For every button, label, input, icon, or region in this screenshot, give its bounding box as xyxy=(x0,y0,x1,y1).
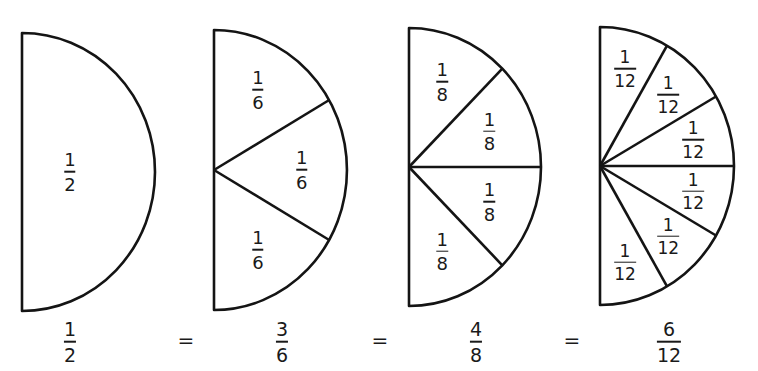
fraction-bar xyxy=(682,139,704,141)
equals-sign: = xyxy=(178,328,195,352)
numerator: 1 xyxy=(252,69,263,87)
numerator: 1 xyxy=(663,75,674,92)
denominator: 12 xyxy=(657,99,679,116)
semicircle-outline xyxy=(214,30,347,310)
equals-sign: = xyxy=(372,328,389,352)
semicircle-outline xyxy=(22,33,155,311)
semicircle-eighths xyxy=(409,28,541,306)
denominator: 12 xyxy=(657,345,681,364)
semicircle-sixths xyxy=(214,30,347,310)
numerator: 1 xyxy=(437,230,448,248)
slice-label: 112 xyxy=(682,120,704,161)
fraction-bar xyxy=(682,191,704,193)
slice-label: 18 xyxy=(484,181,495,224)
denominator: 8 xyxy=(437,86,448,104)
denominator: 12 xyxy=(682,143,704,160)
denominator: 12 xyxy=(657,240,679,257)
fraction-diagram: 1212161616361818181848112112112112112112… xyxy=(0,0,758,371)
fraction-bar xyxy=(657,341,681,343)
fraction-bar xyxy=(614,261,636,263)
denominator: 12 xyxy=(682,195,704,212)
numerator: 1 xyxy=(688,172,699,189)
equals-sign: = xyxy=(564,328,581,352)
slice-label: 112 xyxy=(614,242,636,283)
numerator: 1 xyxy=(484,181,495,199)
numerator: 1 xyxy=(252,229,263,247)
numerator: 1 xyxy=(620,242,631,259)
slice-label: 112 xyxy=(682,172,704,213)
caption-fraction-eighths: 48 xyxy=(470,320,482,365)
numerator: 1 xyxy=(484,111,495,129)
semicircle-diagrams xyxy=(0,0,758,371)
slice-label: 112 xyxy=(657,216,679,257)
numerator: 3 xyxy=(276,320,288,339)
numerator: 1 xyxy=(663,216,674,233)
slice-label: 16 xyxy=(296,149,307,192)
fraction-bar xyxy=(657,94,679,96)
slice-label: 18 xyxy=(437,61,448,104)
numerator: 4 xyxy=(470,320,482,339)
semicircle-halves xyxy=(22,33,155,311)
numerator: 1 xyxy=(296,149,307,167)
slice-label: 18 xyxy=(484,111,495,154)
denominator: 8 xyxy=(484,135,495,153)
fraction-bar xyxy=(252,89,263,91)
fraction-bar xyxy=(437,81,448,83)
fraction-bar xyxy=(252,249,263,251)
denominator: 8 xyxy=(484,205,495,223)
fraction-bar xyxy=(437,250,448,252)
denominator: 6 xyxy=(252,93,263,111)
denominator: 12 xyxy=(614,73,636,90)
fraction-bar xyxy=(470,341,482,343)
denominator: 8 xyxy=(437,255,448,273)
numerator: 1 xyxy=(620,49,631,66)
numerator: 1 xyxy=(437,61,448,79)
denominator: 12 xyxy=(614,266,636,283)
slice-label: 112 xyxy=(657,75,679,116)
caption-fraction-halves: 12 xyxy=(64,320,76,365)
denominator: 6 xyxy=(252,253,263,271)
denominator: 2 xyxy=(64,345,76,364)
numerator: 1 xyxy=(688,120,699,137)
fraction-bar xyxy=(657,235,679,237)
caption-fraction-sixths: 36 xyxy=(276,320,288,365)
caption-fraction-twelfths: 612 xyxy=(657,320,681,365)
denominator: 6 xyxy=(296,173,307,191)
fraction-bar xyxy=(484,131,495,133)
denominator: 6 xyxy=(276,345,288,364)
slice-label: 16 xyxy=(252,69,263,112)
fraction-bar xyxy=(276,341,288,343)
denominator: 8 xyxy=(470,345,482,364)
slice-label: 112 xyxy=(614,49,636,90)
fraction-bar xyxy=(64,341,76,343)
fraction-bar xyxy=(484,201,495,203)
fraction-bar xyxy=(64,171,75,173)
slice-label: 16 xyxy=(252,229,263,272)
numerator: 6 xyxy=(663,320,675,339)
numerator: 1 xyxy=(64,151,75,169)
fraction-bar xyxy=(296,169,307,171)
fraction-bar xyxy=(614,68,636,70)
slice-label: 12 xyxy=(64,151,75,194)
slice-label: 18 xyxy=(437,230,448,273)
numerator: 1 xyxy=(64,320,76,339)
denominator: 2 xyxy=(64,175,75,193)
